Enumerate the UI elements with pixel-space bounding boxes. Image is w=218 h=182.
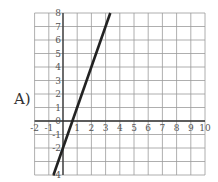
x-tick-label: 9: [188, 123, 194, 133]
y-tick-label: -1: [52, 130, 61, 140]
x-tick-label: 8: [174, 123, 180, 133]
x-tick-label: 6: [145, 123, 151, 133]
y-tick-label: 7: [55, 22, 61, 32]
line-graph: -2-112345678910876543210-1-2-4: [0, 0, 218, 182]
y-tick-label: 0: [55, 116, 61, 126]
y-tick-label: 2: [55, 89, 61, 99]
x-tick-label: 7: [160, 123, 166, 133]
x-tick-label: 1: [74, 123, 80, 133]
x-tick-label: 5: [131, 123, 137, 133]
y-tick-label: 3: [55, 76, 61, 86]
x-tick-label: 4: [117, 123, 123, 133]
y-tick-label: 1: [55, 103, 61, 113]
y-tick-label: 5: [55, 49, 61, 59]
x-tick-label: 3: [103, 123, 109, 133]
x-tick-label: 2: [89, 123, 95, 133]
x-tick-label: 10: [199, 123, 211, 133]
x-tick-label: -2: [30, 123, 39, 133]
y-tick-label: 4: [55, 62, 61, 72]
y-tick-label: 8: [55, 8, 61, 18]
y-tick-label: 6: [55, 35, 61, 45]
y-tick-label: -2: [52, 143, 61, 153]
